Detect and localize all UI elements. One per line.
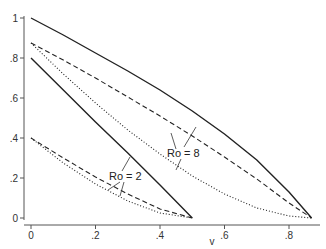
y-tick-label: .4	[10, 133, 19, 144]
series-line	[31, 43, 312, 218]
chart-series	[31, 18, 312, 218]
annotation-ro2: Ro = 2	[109, 170, 142, 182]
series-line	[31, 43, 312, 218]
series-line	[31, 18, 312, 218]
series-line	[31, 58, 192, 218]
y-tick-label: .8	[10, 53, 19, 64]
x-axis-label: v	[210, 236, 215, 247]
y-tick-label: 1	[12, 13, 18, 24]
x-tick-label: .2	[91, 230, 100, 241]
x-tick-label: .6	[220, 230, 229, 241]
x-tick-label: .8	[285, 230, 294, 241]
y-tick-label: 0	[12, 213, 18, 224]
y-tick-label: .6	[10, 93, 19, 104]
annotation-ro8: Ro = 8	[167, 147, 200, 159]
x-tick-label: 0	[28, 230, 34, 241]
y-tick-label: .2	[10, 173, 19, 184]
chart-annotations: Ro = 2Ro = 8	[108, 127, 200, 196]
x-tick-label: .4	[156, 230, 165, 241]
chart-axes: 0.2.4.6.810.2.4.6.8	[10, 13, 320, 242]
line-chart: 0.2.4.6.810.2.4.6.8 Ro = 2Ro = 8 v	[0, 0, 326, 249]
